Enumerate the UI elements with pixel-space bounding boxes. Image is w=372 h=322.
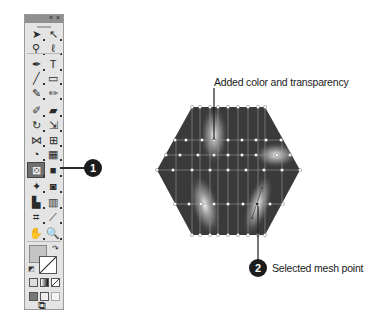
annotation-selected-mesh-point: Selected mesh point bbox=[272, 262, 363, 274]
annotation-added-color: Added color and transparency bbox=[214, 76, 349, 88]
callout-2-badge: 2 bbox=[249, 259, 267, 277]
